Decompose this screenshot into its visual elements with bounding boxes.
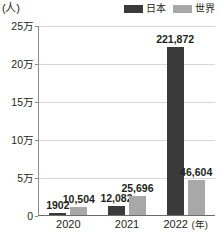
y-tick-label: 20万 — [11, 59, 33, 70]
y-tick-mark — [35, 140, 38, 141]
bar-value-label: 10,504 — [63, 194, 95, 205]
bar-group-bars: 190210,504 — [39, 26, 98, 215]
legend-label-japan: 日本 — [146, 3, 166, 14]
bar-value-label: 46,604 — [180, 167, 212, 178]
x-axis-unit-label: (年) — [189, 219, 208, 230]
bar[interactable] — [70, 207, 87, 215]
bar-group-bars: 12,08225,696 — [98, 26, 157, 215]
y-tick-label: 0 — [27, 211, 33, 222]
bar-groups: 190210,50412,08225,696221,87246,604 — [39, 26, 215, 215]
y-tick-label: 15万 — [11, 97, 33, 108]
bar-item: 46,604 — [188, 26, 205, 215]
x-tick-label: 2022 (年) — [156, 218, 215, 231]
y-axis-unit-label: (人) — [2, 2, 20, 14]
y-tick-label: 5万 — [17, 173, 33, 184]
bar-item: 1902 — [49, 26, 66, 215]
y-tick-label: 10万 — [11, 135, 33, 146]
y-tick-label: 25万 — [11, 21, 33, 32]
legend-label-world: 世界 — [195, 3, 215, 14]
bar-item: 10,504 — [70, 26, 87, 215]
bar-chart: (人) 日本 世界 05万10万15万20万25万 190210,50412,0… — [0, 0, 219, 248]
bar-group: 190210,504 — [39, 26, 98, 215]
legend-swatch-world-icon — [173, 5, 192, 13]
legend-swatch-japan-icon — [124, 5, 143, 13]
bar-group: 221,87246,604 — [156, 26, 215, 215]
y-tick-mark — [35, 102, 38, 103]
bar-group: 12,08225,696 — [98, 26, 157, 215]
x-tick-label: 2020 — [39, 218, 98, 231]
bar[interactable] — [188, 180, 205, 215]
bar-group-bars: 221,87246,604 — [156, 26, 215, 215]
x-axis-line — [38, 215, 215, 216]
bar[interactable] — [108, 206, 125, 215]
bar[interactable] — [167, 47, 184, 215]
bar-item: 25,696 — [129, 26, 146, 215]
legend-item-world: 世界 — [173, 3, 215, 14]
y-tick-mark — [35, 64, 38, 65]
bar-item: 221,872 — [167, 26, 184, 215]
y-tick-mark — [35, 26, 38, 27]
bar[interactable] — [129, 196, 146, 215]
bar-value-label: 12,082 — [100, 193, 132, 204]
plot-area: 05万10万15万20万25万 190210,50412,08225,69622… — [38, 26, 215, 216]
chart-legend: 日本 世界 — [124, 3, 215, 14]
x-axis-labels: 202020212022 (年) — [39, 218, 215, 231]
y-tick-mark — [35, 178, 38, 179]
bar-value-label: 25,696 — [121, 183, 153, 194]
bar[interactable] — [49, 213, 66, 215]
x-tick-label: 2021 — [98, 218, 157, 231]
legend-item-japan: 日本 — [124, 3, 166, 14]
y-tick-mark — [35, 216, 38, 217]
